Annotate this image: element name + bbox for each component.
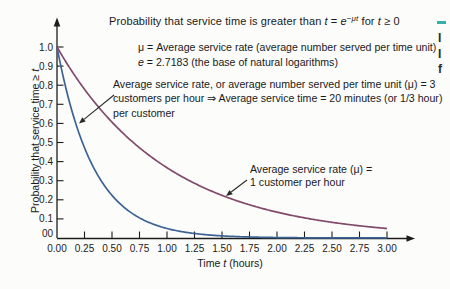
x-tick-label: 0.25 xyxy=(70,243,100,254)
x-tick-label: 1.75 xyxy=(235,243,265,254)
y-tick-label: 0.3 xyxy=(21,175,53,186)
x-tick-label: 1.00 xyxy=(152,243,182,254)
service-time-probability-figure: Probability that service time is greater… xyxy=(0,0,450,289)
y-tick-label: 0.6 xyxy=(21,118,53,129)
clipped-text-fragment: I xyxy=(438,47,450,61)
y-tick-label: 00 xyxy=(21,228,53,239)
x-tick-label: 2.00 xyxy=(262,243,292,254)
y-tick-label: 0.1 xyxy=(21,213,53,224)
x-tick-label: 0.50 xyxy=(97,243,127,254)
x-tick-label: 1.50 xyxy=(207,243,237,254)
y-tick-label: 0.9 xyxy=(21,61,53,72)
clipped-text-fragment: I xyxy=(438,31,450,45)
y-tick-label: 0.5 xyxy=(21,137,53,148)
clipped-letter: I xyxy=(438,31,441,45)
x-tick-label: 2.25 xyxy=(290,243,320,254)
y-tick-label: 0.4 xyxy=(21,156,53,167)
tick-label-layer: 0.000.250.500.751.001.251.501.752.002.25… xyxy=(0,0,450,289)
x-tick-label: 0.00 xyxy=(42,243,72,254)
x-tick-label: 1.25 xyxy=(180,243,210,254)
y-tick-label: 1.0 xyxy=(21,42,53,53)
x-tick-label: 2.75 xyxy=(345,243,375,254)
clipped-letter: I xyxy=(438,47,441,61)
x-tick-label: 3.00 xyxy=(372,243,402,254)
y-tick-label: 0.2 xyxy=(21,194,53,205)
clipped-letter: f xyxy=(438,62,442,76)
page-edge-teal-dash xyxy=(437,21,446,24)
clipped-text-fragment: f xyxy=(438,62,450,76)
y-tick-label: 0.7 xyxy=(21,99,53,110)
x-tick-label: 0.75 xyxy=(125,243,155,254)
y-tick-label: 0.8 xyxy=(21,80,53,91)
x-tick-label: 2.50 xyxy=(317,243,347,254)
